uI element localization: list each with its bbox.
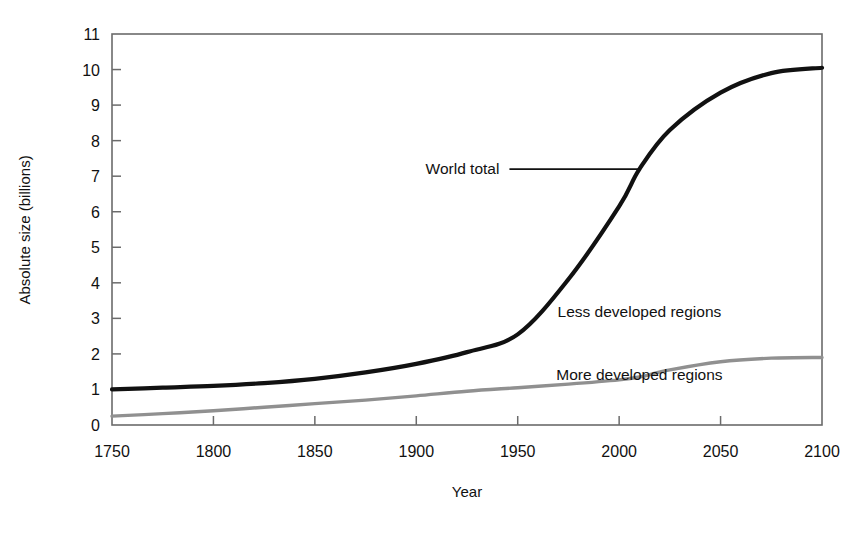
annotation-label-less-developed-regions: Less developed regions	[558, 303, 722, 320]
x-tick-label: 2100	[804, 443, 840, 460]
y-tick-label: 0	[91, 417, 100, 434]
y-tick-label: 11	[83, 26, 100, 43]
y-tick-label: 10	[82, 62, 100, 79]
y-axis-title: Absolute size (billions)	[16, 155, 33, 304]
population-growth-chart: 01234567891011 1750180018501900195020002…	[0, 0, 854, 539]
x-tick-label: 1900	[398, 443, 434, 460]
y-tick-label: 8	[91, 133, 100, 150]
y-tick-label: 9	[91, 97, 100, 114]
y-tick-label: 5	[91, 239, 100, 256]
y-tick-label: 2	[91, 346, 100, 363]
x-tick-label: 2050	[703, 443, 739, 460]
y-tick-label: 7	[91, 168, 100, 185]
y-tick-label: 6	[91, 204, 100, 221]
x-tick-label: 2000	[601, 443, 637, 460]
annotation-label-world-total: World total	[426, 160, 500, 177]
x-tick-label: 1950	[500, 443, 536, 460]
x-axis-title: Year	[452, 483, 482, 500]
x-tick-label: 1850	[297, 443, 333, 460]
x-tick-label: 1800	[196, 443, 232, 460]
annotation-label-more-developed-regions: More developed regions	[556, 366, 723, 383]
y-tick-label: 1	[91, 381, 100, 398]
x-tick-label: 1750	[94, 443, 130, 460]
y-tick-label: 4	[91, 275, 100, 292]
y-tick-label: 3	[91, 310, 100, 327]
